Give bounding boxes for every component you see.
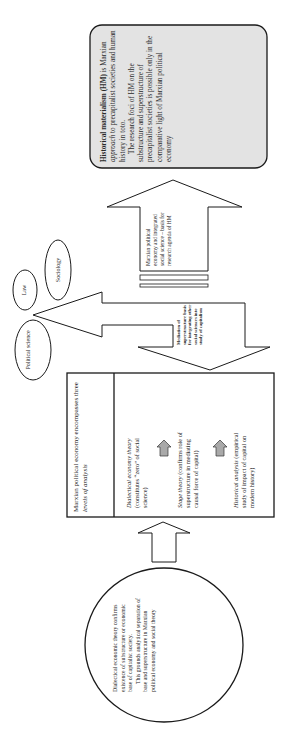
hm-title: Historical materialism (HM): [100, 74, 108, 162]
hm-para2: The research foci of HM on the substruct…: [128, 30, 174, 162]
level-2-title: Stage theory: [176, 476, 183, 508]
level-1: Dialectical economy theory (constitutes …: [125, 428, 150, 508]
circle-para2: This grounds analytical separation of ba…: [135, 596, 158, 692]
levels-header: Marxian political economy encompasses th…: [72, 378, 90, 512]
level-3-title: Historical analysis: [232, 460, 239, 508]
mediation-text: Mediation of superstructure basis for in…: [176, 303, 204, 345]
arrow-stripe-2: [140, 284, 208, 287]
circle-text: Dialectical economic theory confirms exi…: [112, 596, 158, 692]
hm-box-text: Historical materialism (HM) is Marxian a…: [100, 30, 174, 162]
hm-line1-pre: is Marxian: [100, 41, 108, 72]
law-text: Law: [21, 285, 27, 296]
level-3: Historical analysis (empirical study of …: [232, 428, 257, 508]
up-arrow-label: Marxian political economy and integrated…: [145, 212, 172, 266]
circle-to-box-arrow: [138, 522, 190, 562]
sociology-text: Sociology: [55, 258, 61, 282]
level-1-text: (constitutes “zero” of social science): [133, 438, 148, 508]
mediation-arrow: [33, 292, 270, 370]
circle-para1: Dialectical economic theory confirms exi…: [112, 604, 133, 692]
level-1-title: Dialectical economy theory: [125, 438, 132, 508]
base-circle: [85, 568, 243, 722]
political-science-label: Political science: [24, 330, 32, 370]
levels-header-em: levels of analysis: [81, 464, 89, 512]
sociology-label: Sociology: [54, 248, 62, 292]
arrow-stripe-1: [140, 275, 208, 280]
political-science-text: Political science: [25, 330, 31, 369]
level-2: Stage theory (confirms role of superstru…: [176, 428, 201, 508]
up-arrow: [107, 180, 242, 271]
mediation-label: Mediation of superstructure basis for in…: [176, 305, 203, 345]
levels-header-text: Marxian political economy encompasses th…: [72, 382, 80, 512]
hm-line1-em: approach: [109, 135, 117, 162]
up-arrow-text: Marxian political economy and integrated…: [145, 208, 173, 266]
political-science-ellipse: [15, 320, 51, 380]
law-label: Law: [20, 280, 28, 300]
